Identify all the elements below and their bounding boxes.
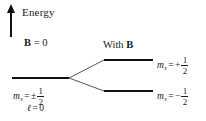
label-orbital-quantum-number: ℓ = 0 <box>27 104 44 114</box>
m-variable: m <box>13 92 20 102</box>
fraction-denominator: 2 <box>182 97 189 107</box>
plus-minus-sign: ± <box>31 92 36 102</box>
s-subscript: s <box>164 96 167 103</box>
ell-value: 0 <box>39 104 44 114</box>
m-variable: m <box>157 61 164 71</box>
b-field-zero-value: = 0 <box>31 37 47 48</box>
energy-axis-arrow <box>6 4 20 38</box>
m-variable: m <box>157 92 164 102</box>
fraction-one-half: 1 2 <box>181 56 188 76</box>
fraction-one-half: 1 2 <box>181 87 188 107</box>
equals-sign: = <box>168 92 173 102</box>
fraction-numerator: 1 <box>182 87 189 97</box>
ell-variable: ℓ <box>27 104 31 114</box>
equals-sign: = <box>32 104 37 114</box>
energy-level-upper <box>104 59 153 61</box>
fraction-denominator: 2 <box>182 66 189 76</box>
with-b-prefix: With <box>103 39 126 50</box>
level-splitting-connectors <box>68 55 106 97</box>
equals-sign: = <box>24 92 29 102</box>
label-upper-ms: ms = + 1 2 <box>157 56 188 76</box>
fraction-numerator: 1 <box>182 56 189 66</box>
b-field-symbol: B <box>24 37 31 48</box>
b-field-zero-header: B = 0 <box>24 38 47 49</box>
fraction-numerator: 1 <box>38 87 45 97</box>
energy-level-lower <box>104 90 153 92</box>
with-b-field-header: With B <box>103 40 133 51</box>
plus-sign: + <box>175 61 180 71</box>
label-lower-ms: ms = − 1 2 <box>157 87 188 107</box>
with-b-field-symbol: B <box>126 39 133 50</box>
zeeman-splitting-diagram: Energy B = 0 With B ms = ± 1 2 ℓ = 0 ms … <box>0 0 206 121</box>
minus-sign: − <box>175 92 180 102</box>
s-subscript: s <box>164 65 167 72</box>
energy-axis-label: Energy <box>22 7 55 18</box>
s-subscript: s <box>20 96 23 103</box>
equals-sign: = <box>168 61 173 71</box>
energy-level-unsplit <box>12 77 69 79</box>
